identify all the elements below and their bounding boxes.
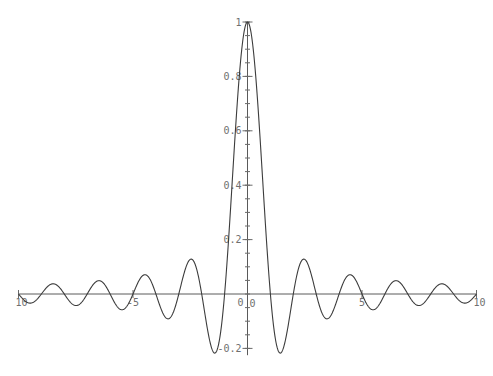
x-tick-label: 10 bbox=[16, 297, 28, 308]
y-tick-label: 0.2 bbox=[223, 234, 241, 245]
y-tick-label: -0.2 bbox=[217, 343, 241, 354]
y-axis-ticks: -0.200.20.40.60.81 bbox=[217, 17, 255, 354]
y-tick-label: 0.6 bbox=[223, 125, 241, 136]
y-tick-label: 1 bbox=[235, 17, 241, 28]
x-tick-label: 10 bbox=[474, 297, 486, 308]
axes bbox=[19, 22, 477, 355]
y-tick-label: 0 bbox=[250, 298, 256, 309]
x-tick-label: 0 bbox=[237, 297, 243, 308]
sinc-plot: 10-50510 -0.200.20.40.60.81 bbox=[0, 0, 493, 376]
